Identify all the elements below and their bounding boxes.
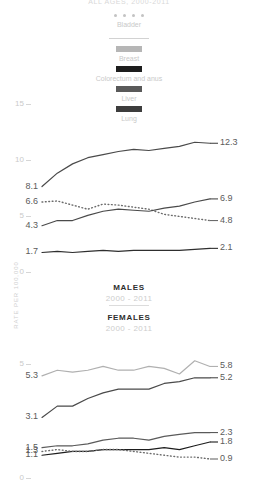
legend-item-bladder: Bladder: [114, 12, 144, 32]
females-title: FEMALES: [0, 312, 258, 323]
males-title: MALES: [0, 282, 258, 293]
start-label: 4.3: [12, 220, 38, 230]
legend-swatch: [116, 86, 142, 92]
legend-divider: [109, 38, 149, 39]
series-line-colorectum-and-anus: [42, 199, 210, 226]
y-tick-15: 15: [2, 99, 24, 108]
legend-swatch: [116, 66, 142, 72]
y-tick-0: 0: [2, 267, 24, 276]
panel-divider: [109, 305, 149, 306]
series-line-colorectum-and-anus: [42, 433, 210, 448]
cancer-incidence-chart: ALL AGES, 2000-2011 BladderBreastColorec…: [0, 0, 258, 491]
y-tick-10: 10: [2, 155, 24, 164]
females-plot: [0, 330, 258, 491]
panel-females: 5 0 5.35.83.15.21.52.31.11.81.30.9: [0, 330, 258, 491]
males-subtitle: 2000 - 2011: [0, 293, 258, 304]
start-label: 5.3: [12, 370, 38, 380]
series-line-bladder: [42, 201, 210, 221]
males-heading: MALES 2000 - 2011: [0, 282, 258, 304]
legend-dotted-marker: [114, 12, 144, 18]
start-label: 6.6: [12, 196, 38, 206]
end-label: 12.3: [220, 137, 238, 147]
end-label: 5.2: [220, 372, 233, 382]
series-line-liver: [42, 442, 210, 455]
series-line-bladder: [42, 450, 210, 459]
end-label: 6.9: [220, 193, 233, 203]
end-label: 4.8: [220, 215, 233, 225]
panel-males: 15 10 5 0 8.112.36.64.84.36.91.72.1: [0, 100, 258, 285]
legend-label: Breast: [119, 53, 139, 64]
series-line-lung: [42, 378, 210, 418]
end-label: 2.1: [220, 242, 233, 252]
y-tick-5: 5: [2, 211, 24, 220]
series-line-lung: [42, 142, 210, 186]
series-line-liver: [42, 248, 210, 252]
end-label: 5.8: [220, 360, 233, 370]
end-label: 0.9: [220, 453, 233, 463]
start-label: 1.7: [12, 246, 38, 256]
end-label: 1.8: [220, 436, 233, 446]
start-label: 1.3: [12, 445, 38, 455]
legend-item-breast: Breast: [116, 46, 142, 66]
y-tick-0-female: 0: [2, 473, 24, 482]
legend-label: Bladder: [117, 19, 141, 30]
series-line-breast: [42, 361, 210, 376]
start-label: 8.1: [12, 181, 38, 191]
y-tick-5-female: 5: [2, 359, 24, 368]
legend-item-colorectum-and-anus: Colorectum and anus: [96, 66, 163, 86]
legend-swatch: [116, 46, 142, 52]
chart-title: ALL AGES, 2000-2011: [0, 0, 258, 5]
start-label: 3.1: [12, 411, 38, 421]
legend-label: Colorectum and anus: [96, 73, 163, 84]
